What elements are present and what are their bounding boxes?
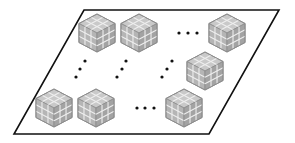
ellipsis-dot <box>74 75 77 78</box>
ellipsis-dot <box>120 67 123 70</box>
cube-grid-diagram <box>0 0 295 143</box>
ellipsis-dot <box>135 106 138 109</box>
ellipsis-dot <box>165 67 168 70</box>
ellipsis-dot <box>115 75 118 78</box>
ellipsis-dot <box>152 106 155 109</box>
ellipsis-dot <box>124 59 127 62</box>
ellipsis-dot <box>143 106 146 109</box>
diagram-canvas <box>0 0 295 143</box>
ellipsis-dot <box>177 31 180 34</box>
ellipsis-dot <box>195 31 198 34</box>
ellipsis-dot <box>186 31 189 34</box>
ellipsis-dot <box>160 75 163 78</box>
ellipsis-dot <box>78 67 81 70</box>
ellipsis-dot <box>83 59 86 62</box>
ellipsis-dot <box>170 59 173 62</box>
